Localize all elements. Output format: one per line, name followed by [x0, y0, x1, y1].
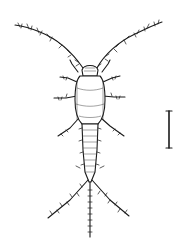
left-antenna: [15, 23, 83, 68]
abdomen: [82, 124, 98, 182]
cerci-bristles: [50, 184, 127, 232]
cerci: [48, 180, 129, 237]
right-antenna: [97, 20, 162, 68]
insect-illustration: [0, 0, 185, 243]
thorax: [75, 76, 105, 124]
scale-bar: [166, 111, 172, 148]
